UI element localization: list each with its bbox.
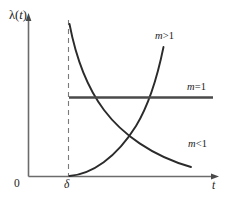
curve-label-m-equals-relation: =1 — [195, 81, 206, 92]
y-axis-label-suffix: ) — [23, 8, 27, 22]
hazard-rate-figure: λ(t) t 0 δ m>1 m=1 m<1 — [0, 0, 235, 201]
y-axis-label-lambda: λ( — [9, 8, 19, 22]
curve-label-m-less-relation: <1 — [196, 138, 207, 149]
x-axis-label: t — [212, 180, 215, 192]
curve-label-m-greater-relation: >1 — [163, 30, 174, 41]
curve-m-less-than-1 — [70, 24, 192, 167]
curve-label-m-less-variable: m — [188, 138, 196, 149]
delta-tick-label: δ — [64, 179, 69, 191]
curve-m-greater-than-1 — [70, 47, 164, 176]
y-axis-label: λ(t) — [9, 9, 27, 22]
curve-label-m-equals-variable: m — [187, 81, 195, 92]
figure-canvas — [0, 0, 235, 201]
origin-label: 0 — [14, 178, 20, 190]
curve-label-m-greater-variable: m — [155, 30, 163, 41]
curve-label-m-greater-than-1: m>1 — [155, 31, 174, 42]
curve-label-m-less-than-1: m<1 — [188, 139, 207, 150]
curve-label-m-equals-1: m=1 — [187, 82, 206, 93]
